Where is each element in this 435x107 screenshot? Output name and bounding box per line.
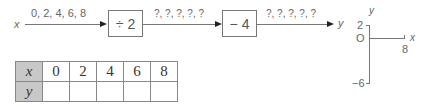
origin-label: O	[356, 32, 365, 44]
output-label: y	[338, 17, 344, 29]
step1-operation: ÷ 2	[116, 16, 135, 32]
row-header-x: x	[16, 62, 43, 82]
x-max-tick-label: 8	[402, 43, 408, 55]
step1-output: ?, ?, ?, ?, ?	[154, 8, 204, 19]
subtract-4-box: − 4	[222, 10, 257, 37]
y-cell[interactable]	[43, 82, 70, 102]
y-cell[interactable]	[97, 82, 124, 102]
arrow-head-icon	[327, 21, 334, 27]
x-cell: 6	[124, 62, 151, 82]
input-values: 0, 2, 4, 6, 8	[31, 7, 86, 19]
x-end-tick	[404, 35, 405, 38]
y-bottom-tick	[366, 83, 369, 84]
y-max-tick-label: 2	[357, 19, 363, 31]
arrow-line-2	[142, 24, 215, 25]
x-cell: 0	[43, 62, 70, 82]
y-cell[interactable]	[70, 82, 97, 102]
y-axis	[369, 25, 370, 84]
x-cell: 2	[70, 62, 97, 82]
arrow-line-1	[25, 24, 100, 25]
y-cell[interactable]	[124, 82, 151, 102]
divide-by-2-box: ÷ 2	[108, 10, 143, 37]
x-axis-label: x	[410, 32, 415, 43]
table-row-x: x 0 2 4 6 8	[16, 62, 178, 82]
step2-output: ?, ?, ?, ?, ?	[266, 8, 316, 19]
input-label: x	[14, 18, 20, 30]
y-cell[interactable]	[151, 82, 178, 102]
x-axis	[369, 38, 405, 39]
arrow-line-3	[256, 24, 327, 25]
row-header-y: y	[16, 82, 43, 102]
table-row-y: y	[16, 82, 178, 102]
x-cell: 4	[97, 62, 124, 82]
x-cell: 8	[151, 62, 178, 82]
y-axis-label: y	[369, 5, 374, 16]
arrow-head-icon	[215, 21, 222, 27]
step2-operation: − 4	[230, 16, 250, 32]
arrow-head-icon	[100, 21, 107, 27]
y-min-tick-label: −6	[352, 77, 365, 89]
values-table: x 0 2 4 6 8 y	[15, 61, 178, 102]
